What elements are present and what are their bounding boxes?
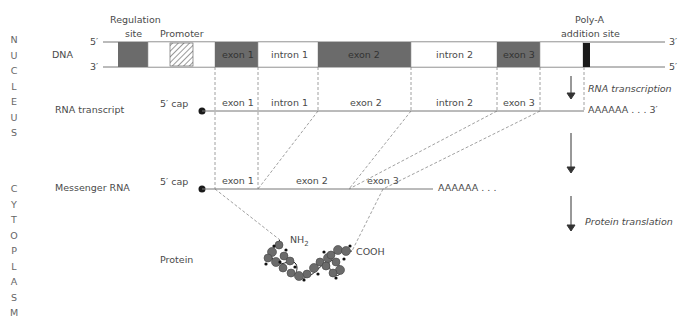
- n-terminus-label: NH2: [290, 234, 309, 248]
- protein-row-label: Protein: [160, 254, 193, 265]
- regulation-site-label-2: site: [125, 28, 142, 39]
- rna-transcript-strand: [199, 108, 585, 115]
- mrna-strand: [199, 186, 434, 193]
- projection-guides: [215, 67, 584, 251]
- messenger-rna-row-label: Messenger RNA: [55, 182, 130, 193]
- promoter-label: Promoter: [160, 28, 204, 39]
- rna-exon-2: exon 2: [350, 97, 382, 108]
- dna-exon-3: exon 3: [503, 49, 535, 60]
- rna-intron-1: intron 1: [271, 97, 308, 108]
- mrna-exon-1: exon 1: [222, 175, 254, 186]
- rna-polya-tail: AAAAAA . . . 3′: [588, 104, 658, 115]
- dna-3prime-left: 3′: [90, 61, 98, 72]
- mrna-polya-tail: AAAAAA . . .: [438, 182, 496, 193]
- rna-exon-1: exon 1: [222, 97, 254, 108]
- regulation-site-box: [118, 42, 148, 67]
- regulation-site-label-1: Regulation: [110, 14, 161, 25]
- mrna-exon-3: exon 3: [367, 175, 399, 186]
- c-terminus-label: COOH: [356, 246, 385, 257]
- process-arrows: [567, 76, 575, 231]
- dna-exon-2: exon 2: [348, 49, 380, 60]
- dna-exon-1: exon 1: [222, 49, 254, 60]
- polya-site-bar: [583, 43, 590, 67]
- rna-cap-label: 5′ cap: [160, 98, 188, 109]
- dna-3prime-right: 3′: [669, 36, 677, 47]
- dna-strand: [103, 42, 665, 67]
- polya-label-2: addition site: [561, 28, 620, 39]
- dna-intron-2: intron 2: [436, 49, 473, 60]
- mrna-cap-label: 5′ cap: [160, 176, 188, 187]
- rna-transcription-label: RNA transcription: [588, 83, 672, 94]
- rna-transcript-row-label: RNA transcript: [55, 104, 124, 115]
- dna-row-label: DNA: [52, 49, 73, 60]
- mrna-exon-2: exon 2: [296, 175, 328, 186]
- gene-expression-diagram: [0, 0, 692, 321]
- dna-5prime-right: 5′: [669, 61, 677, 72]
- dna-5prime-left: 5′: [90, 36, 98, 47]
- promoter-box: [170, 43, 193, 66]
- rna-exon-3: exon 3: [503, 97, 535, 108]
- protein-translation-label: Protein translation: [585, 216, 673, 227]
- rna-intron-2: intron 2: [436, 97, 473, 108]
- dna-intron-1: intron 1: [271, 49, 308, 60]
- polya-label-1: Poly-A: [575, 14, 604, 25]
